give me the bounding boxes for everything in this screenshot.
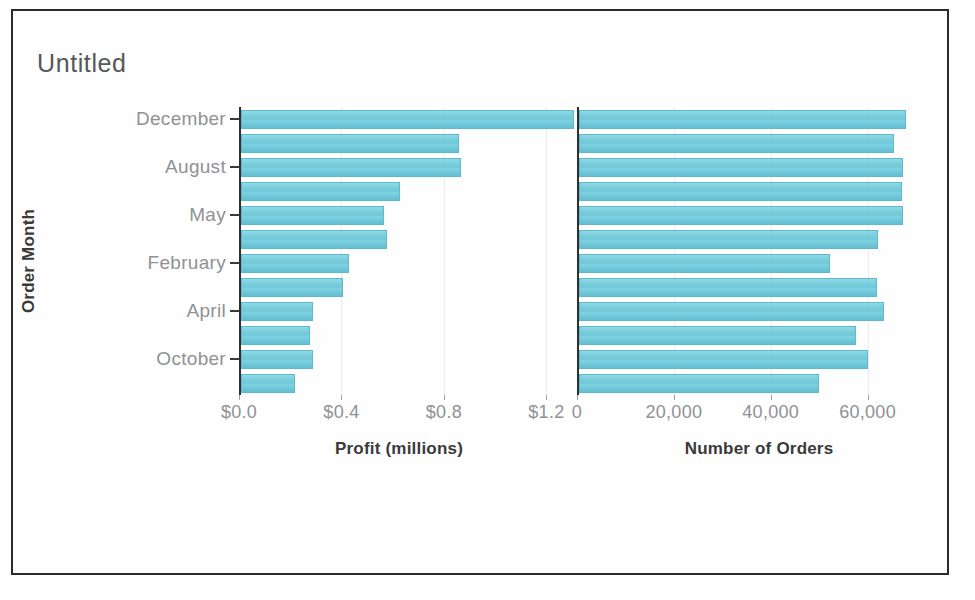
gridline bbox=[674, 107, 675, 395]
bar[interactable] bbox=[241, 206, 384, 225]
bar[interactable] bbox=[241, 230, 387, 249]
y-axis-title: Order Month bbox=[19, 181, 39, 341]
y-axis-tick-label: August bbox=[165, 156, 226, 178]
gridline bbox=[546, 107, 547, 395]
screenshot-frame: Untitled Order Month DecemberAugustMayFe… bbox=[11, 9, 949, 575]
bar[interactable] bbox=[579, 254, 830, 273]
bar[interactable] bbox=[241, 158, 461, 177]
bar[interactable] bbox=[241, 374, 295, 393]
x-axis-tick-label: 40,000 bbox=[742, 402, 799, 423]
y-axis-tick-label: December bbox=[136, 108, 226, 130]
gridline bbox=[868, 107, 869, 395]
bar[interactable] bbox=[579, 182, 902, 201]
x-axis-tick-label: $0.4 bbox=[323, 402, 359, 423]
gridline bbox=[341, 107, 342, 395]
bar-series-profit bbox=[241, 107, 559, 395]
x-axis-tick-mark bbox=[771, 395, 772, 400]
x-axis-orders: 020,00040,00060,000Number of Orders bbox=[577, 395, 927, 455]
y-axis-tick-label: April bbox=[186, 300, 226, 322]
bar[interactable] bbox=[241, 134, 459, 153]
bar[interactable] bbox=[579, 374, 819, 393]
bar[interactable] bbox=[579, 278, 877, 297]
x-axis-title: Profit (millions) bbox=[335, 439, 463, 459]
y-axis-tick-label: February bbox=[148, 252, 226, 274]
bar[interactable] bbox=[241, 278, 343, 297]
bar[interactable] bbox=[579, 350, 868, 369]
bar[interactable] bbox=[579, 326, 856, 345]
bar[interactable] bbox=[579, 158, 903, 177]
y-axis-tick-labels: DecemberAugustMayFebruaryAprilOctober bbox=[73, 107, 230, 395]
page-title: Untitled bbox=[37, 49, 127, 78]
x-axis-profit: $0.0$0.4$0.8$1.2Profit (millions) bbox=[239, 395, 569, 455]
bar-series-orders bbox=[579, 107, 927, 395]
gridline bbox=[771, 107, 772, 395]
x-axis-tick-mark bbox=[239, 395, 240, 400]
y-axis-tick-label: October bbox=[156, 348, 226, 370]
x-axis-tick-mark bbox=[674, 395, 675, 400]
x-axis-tick-mark bbox=[868, 395, 869, 400]
x-axis-tick-label: $0.0 bbox=[221, 402, 257, 423]
bar[interactable] bbox=[579, 206, 903, 225]
bar[interactable] bbox=[241, 350, 313, 369]
bar[interactable] bbox=[241, 110, 574, 129]
chart-panel-profit bbox=[239, 107, 557, 395]
bar[interactable] bbox=[579, 134, 894, 153]
visualization-canvas: Untitled Order Month DecemberAugustMayFe… bbox=[13, 11, 947, 573]
chart-panel-orders bbox=[577, 107, 925, 395]
bar[interactable] bbox=[579, 230, 878, 249]
bar[interactable] bbox=[579, 110, 906, 129]
x-axis-tick-mark bbox=[444, 395, 445, 400]
x-axis-tick-mark bbox=[341, 395, 342, 400]
bar[interactable] bbox=[241, 326, 310, 345]
x-axis-tick-label: $1.2 bbox=[528, 402, 564, 423]
bar[interactable] bbox=[241, 302, 313, 321]
bar[interactable] bbox=[579, 302, 884, 321]
bar[interactable] bbox=[241, 254, 349, 273]
x-axis-tick-mark bbox=[577, 395, 578, 400]
x-axis-tick-label: 20,000 bbox=[645, 402, 702, 423]
x-axis-tick-mark bbox=[546, 395, 547, 400]
x-axis-tick-label: 60,000 bbox=[839, 402, 896, 423]
gridline bbox=[444, 107, 445, 395]
bar[interactable] bbox=[241, 182, 400, 201]
y-axis-tick-label: May bbox=[189, 204, 226, 226]
x-axis-tick-label: $0.8 bbox=[426, 402, 462, 423]
x-axis-tick-label: 0 bbox=[572, 402, 582, 423]
x-axis-title: Number of Orders bbox=[685, 439, 834, 459]
